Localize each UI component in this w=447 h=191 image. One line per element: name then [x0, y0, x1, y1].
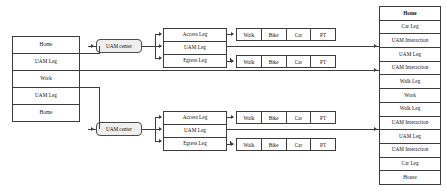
uam-center-node-bottom[interactable]: UAM center [96, 122, 142, 136]
result-item-walk-leg-2: Walk Leg [380, 103, 440, 117]
mode-bike[interactable]: Bike [262, 56, 287, 67]
connector-top-egress-drop [230, 58, 231, 62]
connector-bottom-uamleg-arrow [374, 127, 377, 131]
top-leg-access: Access Leg [164, 29, 226, 42]
trip-chain-item-home-1: Home [13, 37, 79, 54]
connector-uamleg1-out [80, 53, 100, 54]
connector-center-top-out [142, 46, 156, 47]
result-item-home-1: Home [380, 7, 440, 21]
result-item-uam-interaction-2: UAM Interaction [380, 62, 440, 76]
trip-chain-item-home-2: Home [13, 105, 79, 121]
bottom-leg-access: Access Leg [164, 112, 226, 125]
connector-top-uamleg-long [227, 46, 379, 47]
top-access-mode-choices: Walk Bike Car PT [236, 28, 336, 41]
result-item-walk-leg-1: Walk Leg [380, 75, 440, 89]
trip-chain-item-uamleg-1: UAM Leg [13, 54, 79, 71]
mode-walk[interactable]: Walk [237, 112, 262, 123]
connector-top-egress-arrow [159, 56, 162, 60]
trip-chain-item-uamleg-2: UAM Leg [13, 88, 79, 105]
bottom-egress-mode-choices: Walk Bike Car PT [236, 138, 336, 151]
uam-center-node-top[interactable]: UAM center [96, 39, 142, 53]
result-item-car-leg-2: Car Leg [380, 158, 440, 172]
connector-bottom-access-arrow [159, 115, 162, 119]
bottom-leg-egress: Egress Leg [164, 138, 226, 150]
mode-walk[interactable]: Walk [237, 56, 262, 67]
result-item-work: Work [380, 89, 440, 103]
uam-center-bottom-label: UAM center [106, 126, 132, 132]
result-item-uam-leg-2: UAM Leg [380, 130, 440, 144]
connector-bottom-uamleg-long [227, 129, 379, 130]
diagram-canvas: Home UAM Leg Work UAM Leg Home UAM cente… [0, 0, 447, 191]
connector-bottom-egress-arrow [159, 139, 162, 143]
mode-walk[interactable]: Walk [237, 139, 262, 150]
connector-uamleg2-arrow [91, 127, 94, 131]
mode-car[interactable]: Car [287, 56, 312, 67]
trip-chain-item-work: Work [13, 71, 79, 88]
result-item-uam-interaction-3: UAM Interaction [380, 117, 440, 131]
mode-car[interactable]: Car [287, 139, 312, 150]
mode-pt[interactable]: PT [311, 112, 335, 123]
connector-top-uam-arrow [159, 44, 162, 48]
connector-uamleg1-tocenter [88, 46, 96, 47]
connector-uamleg2-out [80, 87, 100, 88]
top-leg-egress: Egress Leg [164, 55, 226, 67]
connector-top-access-modes-arrow [231, 32, 234, 36]
connector-bottom-egress-modes-arrow [231, 142, 234, 146]
connector-center-bottom-out [142, 129, 156, 130]
top-egress-mode-choices: Walk Bike Car PT [236, 55, 336, 68]
connector-bottom-access-modes-arrow [231, 115, 234, 119]
mode-bike[interactable]: Bike [262, 112, 287, 123]
result-item-uam-leg-1: UAM Leg [380, 48, 440, 62]
mode-pt[interactable]: PT [311, 139, 335, 150]
uam-center-top-label: UAM center [106, 43, 132, 49]
bottom-leg-decomposition: Access Leg UAM Leg Egress Leg [163, 111, 227, 151]
left-trip-chain-column: Home UAM Leg Work UAM Leg Home [12, 36, 80, 122]
mode-pt[interactable]: PT [311, 56, 335, 67]
result-item-uam-interaction-4: UAM Interaction [380, 144, 440, 158]
mode-car[interactable]: Car [287, 29, 312, 40]
connector-uamleg1-rise [99, 46, 100, 54]
connector-work-arrow [374, 68, 377, 72]
bottom-leg-uam: UAM Leg [164, 125, 226, 138]
connector-work-long [80, 70, 379, 71]
connector-bottom-uam-arrow [159, 127, 162, 131]
connector-bottom-egress-drop [230, 141, 231, 145]
connector-top-egress-modes-arrow [231, 59, 234, 63]
mode-walk[interactable]: Walk [237, 29, 262, 40]
top-leg-uam: UAM Leg [164, 42, 226, 55]
mode-bike[interactable]: Bike [262, 139, 287, 150]
connector-top-uamleg-arrow [374, 44, 377, 48]
connector-uamleg2-drop [99, 87, 100, 129]
connector-top-access-arrow [159, 32, 162, 36]
result-item-car-leg-1: Car Leg [380, 21, 440, 35]
mode-pt[interactable]: PT [311, 29, 335, 40]
bottom-access-mode-choices: Walk Bike Car PT [236, 111, 336, 124]
top-leg-decomposition: Access Leg UAM Leg Egress Leg [163, 28, 227, 68]
result-item-house: House [380, 171, 440, 184]
result-item-uam-interaction-1: UAM Interaction [380, 34, 440, 48]
right-resulting-trip-chain: Home Car Leg UAM Interaction UAM Leg UAM… [379, 6, 441, 185]
mode-car[interactable]: Car [287, 112, 312, 123]
mode-bike[interactable]: Bike [262, 29, 287, 40]
